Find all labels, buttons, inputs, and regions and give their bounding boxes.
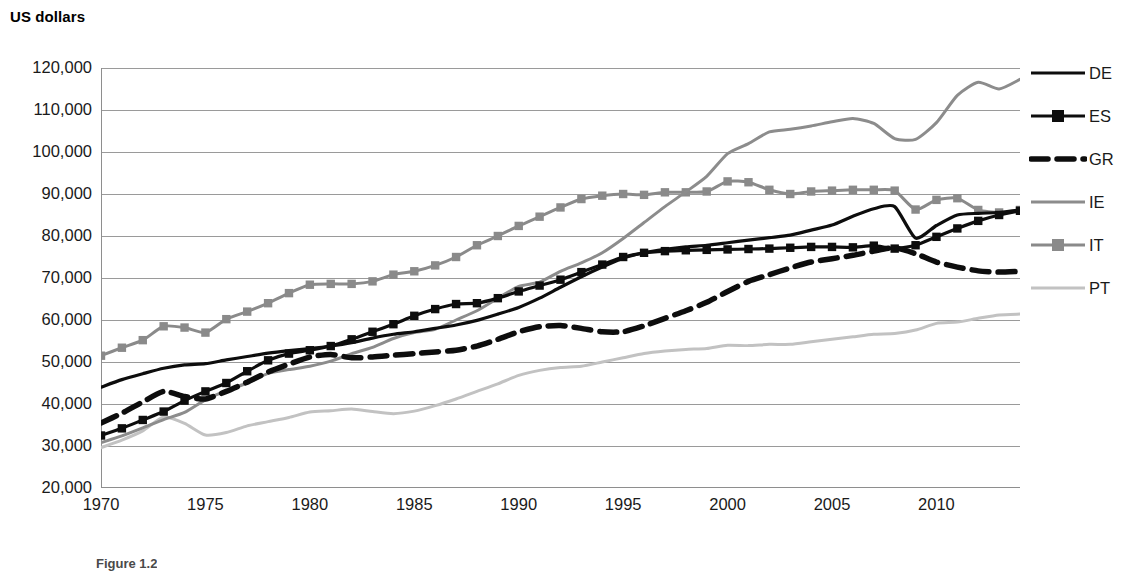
data-point-marker-ES (723, 245, 731, 253)
data-point-marker-ES (911, 241, 919, 249)
y-axis-tick-label: 100,000 (32, 143, 92, 160)
data-point-marker-ES (410, 312, 418, 320)
data-point-marker-IT (368, 277, 376, 285)
data-point-marker-ES (494, 294, 502, 302)
data-point-marker-ES (849, 243, 857, 251)
data-point-marker-IT (222, 315, 230, 323)
data-point-marker-ES (807, 243, 815, 251)
legend-label-PT: PT (1089, 280, 1110, 297)
data-point-marker-IT (535, 212, 543, 220)
data-point-marker-IT (911, 205, 919, 213)
data-point-marker-IT (139, 336, 147, 344)
legend-label-IT: IT (1089, 237, 1104, 254)
legend-label-DE: DE (1089, 65, 1112, 82)
legend-swatch-PT (1029, 278, 1087, 298)
data-point-marker-IT (849, 186, 857, 194)
data-point-marker-ES (118, 424, 126, 432)
data-point-marker-IT (598, 191, 606, 199)
x-axis-tick-label: 2000 (709, 496, 746, 513)
y-axis-tick-label: 110,000 (34, 101, 92, 118)
legend-swatch-GR (1029, 149, 1087, 169)
data-point-marker-ES (974, 217, 982, 225)
series-line-DE (101, 205, 1020, 387)
data-point-marker-IT (765, 186, 773, 194)
data-point-marker-ES (101, 431, 105, 439)
data-point-marker-IT (389, 270, 397, 278)
legend-item-GR[interactable]: GR (1029, 146, 1148, 172)
data-point-marker-IT (870, 186, 878, 194)
data-point-marker-IT (410, 267, 418, 275)
legend-label-ES: ES (1089, 108, 1111, 125)
series-line-PT (101, 314, 1020, 448)
y-axis-tick-label: 80,000 (42, 227, 92, 244)
data-point-marker-ES (765, 244, 773, 252)
data-point-marker-IT (473, 241, 481, 249)
data-point-marker-IT (723, 177, 731, 185)
y-axis-tick-label: 90,000 (42, 185, 92, 202)
data-point-marker-ES (243, 367, 251, 375)
data-point-marker-IT (577, 195, 585, 203)
data-point-marker-ES (556, 275, 564, 283)
data-point-marker-IT (452, 253, 460, 261)
legend-label-GR: GR (1089, 151, 1114, 168)
legend-label-IE: IE (1089, 194, 1105, 211)
x-axis-tick-label: 1975 (187, 496, 224, 513)
chart-plot-svg (101, 68, 1020, 488)
x-axis-tick-label: 1980 (292, 496, 329, 513)
data-point-marker-ES (744, 245, 752, 253)
data-point-marker-IT (703, 187, 711, 195)
figure-caption: Figure 1.2 (96, 556, 157, 572)
data-point-marker-IT (807, 187, 815, 195)
data-point-marker-IT (556, 203, 564, 211)
data-point-marker-IT (118, 344, 126, 352)
data-point-marker-ES (389, 320, 397, 328)
data-point-marker-ES (932, 233, 940, 241)
data-point-marker-ES (515, 287, 523, 295)
data-point-marker-ES (159, 407, 167, 415)
y-axis-tick-label: 40,000 (42, 395, 92, 412)
legend-item-ES[interactable]: ES (1029, 103, 1148, 129)
legend-swatch-ES (1029, 106, 1087, 126)
data-point-marker-IT (347, 280, 355, 288)
data-point-marker-IT (159, 322, 167, 330)
x-axis-tick-label: 1985 (396, 496, 433, 513)
data-point-marker-IT (890, 186, 898, 194)
chart-legend: DEESGRIEITPT (1029, 60, 1148, 320)
data-point-marker-IT (744, 178, 752, 186)
data-point-marker-IT (786, 190, 794, 198)
series-DE (101, 205, 1020, 387)
legend-marker-ES (1052, 110, 1064, 122)
data-point-marker-ES (264, 356, 272, 364)
x-axis-tick-label: 1990 (500, 496, 537, 513)
data-point-marker-IT (243, 307, 251, 315)
data-point-marker-ES (473, 299, 481, 307)
data-point-marker-IT (180, 323, 188, 331)
chart-container: US dollars 120,000110,000100,00090,00080… (0, 0, 1148, 583)
legend-item-DE[interactable]: DE (1029, 60, 1148, 86)
x-axis-tick-label: 2005 (814, 496, 851, 513)
legend-item-IE[interactable]: IE (1029, 189, 1148, 215)
legend-swatch-DE (1029, 63, 1087, 83)
data-point-marker-IT (953, 194, 961, 202)
x-axis-tick-label: 1970 (83, 496, 120, 513)
y-axis-tick-label: 60,000 (42, 311, 92, 328)
axis-title: US dollars (10, 8, 85, 25)
data-point-marker-IT (661, 188, 669, 196)
x-axis-tick-label: 2010 (918, 496, 955, 513)
legend-item-IT[interactable]: IT (1029, 232, 1148, 258)
plot-area (101, 68, 1020, 488)
data-point-marker-ES (368, 328, 376, 336)
data-point-marker-IT (494, 232, 502, 240)
data-point-marker-ES (431, 305, 439, 313)
series-PT (101, 314, 1020, 448)
x-axis-tick-label: 1995 (605, 496, 642, 513)
data-point-marker-IT (932, 196, 940, 204)
legend-marker-IT (1052, 239, 1064, 251)
legend-item-PT[interactable]: PT (1029, 275, 1148, 301)
y-axis-tick-label: 70,000 (42, 269, 92, 286)
data-point-marker-ES (222, 379, 230, 387)
data-point-marker-ES (452, 300, 460, 308)
data-point-marker-IT (619, 190, 627, 198)
y-axis-tick-label: 50,000 (42, 353, 92, 370)
data-point-marker-ES (139, 416, 147, 424)
